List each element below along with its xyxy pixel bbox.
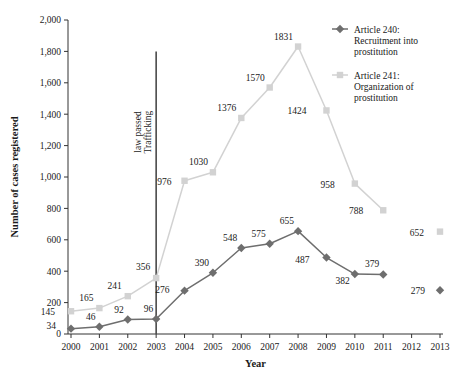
data-point-label: 575	[251, 229, 266, 239]
data-point-marker	[238, 115, 244, 121]
data-point-marker	[153, 275, 159, 281]
data-point-label: 1831	[274, 32, 293, 42]
trafficking-law-label-line1: Trafficking	[143, 110, 153, 153]
data-point-label: 34	[47, 321, 57, 331]
x-axis-tick-label: 2008	[289, 342, 308, 352]
data-point-marker	[181, 178, 187, 184]
data-point-label: 652	[410, 228, 425, 238]
data-point-label: 976	[157, 177, 172, 187]
data-point-label: 390	[195, 258, 210, 268]
x-axis-tick-label: 2009	[317, 342, 336, 352]
legend-label: Article 241:	[354, 71, 400, 81]
y-axis-tick-label: 1,400	[40, 110, 62, 120]
data-point-marker	[436, 286, 444, 294]
data-point-label: 96	[144, 304, 154, 314]
data-point-label: 382	[336, 276, 351, 286]
y-axis-tick-label: 800	[47, 204, 62, 214]
x-axis-tick-label: 2000	[62, 342, 81, 352]
data-point-label: 46	[86, 312, 96, 322]
y-axis-tick-label: 1,000	[40, 172, 62, 182]
legend-label: prostitution	[354, 93, 398, 103]
x-axis-tick-label: 2003	[147, 342, 166, 352]
data-point-label: 92	[114, 305, 124, 315]
data-point-marker	[352, 180, 358, 186]
y-axis-tick-label: 1,800	[40, 47, 62, 57]
legend-label: Article 240:	[354, 25, 400, 35]
data-point-marker	[351, 270, 359, 278]
data-point-label: 356	[136, 262, 151, 272]
data-point-marker	[323, 107, 329, 113]
data-point-label: 145	[41, 307, 56, 317]
x-axis-tick-label: 2002	[118, 342, 137, 352]
data-point-label: 1376	[217, 103, 236, 113]
data-point-label: 548	[223, 233, 238, 243]
data-point-label: 165	[79, 293, 94, 303]
legend-label: Organization of	[354, 82, 415, 92]
legend-marker	[336, 25, 344, 33]
x-axis-tick-label: 2013	[431, 342, 450, 352]
data-point-label: 958	[321, 180, 336, 190]
legend-label: Recruitment into	[354, 36, 418, 46]
x-axis-tick-label: 2010	[345, 342, 364, 352]
data-point-label: 279	[411, 286, 426, 296]
x-axis-tick-label: 2011	[374, 342, 393, 352]
y-axis-title: Number of cases registered	[9, 116, 20, 237]
x-axis-tick-label: 2005	[203, 342, 222, 352]
data-point-label: 1030	[189, 157, 208, 167]
y-axis-tick-label: 600	[47, 235, 62, 245]
data-point-label: 1424	[287, 106, 306, 116]
y-axis-tick-label: 0	[56, 329, 61, 339]
data-point-label: 241	[108, 281, 123, 291]
legend-marker	[337, 72, 343, 78]
data-point-label: 1570	[246, 73, 265, 83]
data-point-marker	[95, 323, 103, 331]
data-point-marker	[379, 270, 387, 278]
series-line	[71, 47, 383, 312]
x-axis-tick-label: 2004	[175, 342, 194, 352]
data-point-label: 276	[155, 285, 170, 295]
data-point-marker	[265, 240, 273, 248]
y-axis-tick-label: 2,000	[40, 15, 62, 25]
data-point-label: 379	[365, 259, 380, 269]
data-point-label: 487	[295, 255, 310, 265]
y-axis-tick-label: 1,200	[40, 141, 62, 151]
x-axis-tick-label: 2001	[90, 342, 109, 352]
data-point-marker	[125, 293, 131, 299]
line-chart: 02004006008001,0001,2001,4001,6001,8002,…	[0, 0, 451, 380]
data-point-marker	[295, 43, 301, 49]
data-point-label: 788	[349, 206, 364, 216]
data-point-marker	[68, 308, 74, 314]
data-point-marker	[210, 169, 216, 175]
data-point-marker	[124, 315, 132, 323]
x-axis-tick-label: 2006	[232, 342, 251, 352]
data-point-label: 655	[280, 216, 295, 226]
data-point-marker	[96, 305, 102, 311]
data-point-marker	[266, 84, 272, 90]
data-point-marker	[437, 228, 443, 234]
trafficking-law-label-line2: law passed	[133, 111, 143, 153]
chart-container: 02004006008001,0001,2001,4001,6001,8002,…	[0, 0, 451, 380]
x-axis-title: Year	[245, 358, 266, 369]
legend-label: prostitution	[354, 47, 398, 57]
data-point-marker	[380, 207, 386, 213]
y-axis-tick-label: 1,600	[40, 78, 62, 88]
x-axis-tick-label: 2012	[402, 342, 421, 352]
x-axis-tick-label: 2007	[260, 342, 279, 352]
y-axis-tick-label: 400	[47, 267, 62, 277]
